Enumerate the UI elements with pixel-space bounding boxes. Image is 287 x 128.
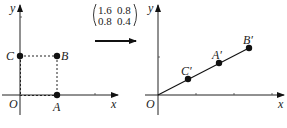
matrix-a21: 0.8 bbox=[98, 15, 112, 27]
point-a bbox=[54, 92, 60, 98]
label-a-prime: A′ bbox=[211, 48, 222, 62]
image-line bbox=[158, 48, 249, 95]
left-y-label: y bbox=[9, 1, 16, 15]
right-plot: y x O C′ A′ B′ bbox=[145, 1, 284, 115]
diagram: y x O A B C 1.6 0.8 0.8 0.4 y x O C′ A′ … bbox=[0, 0, 287, 128]
left-origin-label: O bbox=[9, 97, 18, 111]
label-c-prime: C′ bbox=[181, 64, 192, 78]
matrix-left-paren bbox=[94, 4, 97, 26]
right-y-label: y bbox=[147, 1, 154, 15]
matrix-right-paren bbox=[134, 4, 137, 26]
point-c bbox=[17, 53, 23, 59]
point-b bbox=[54, 53, 60, 59]
label-c: C bbox=[6, 49, 15, 63]
transform-matrix: 1.6 0.8 0.8 0.4 bbox=[94, 4, 137, 41]
label-b: B bbox=[61, 49, 69, 63]
matrix-a22: 0.4 bbox=[117, 15, 131, 27]
label-b-prime: B′ bbox=[243, 33, 253, 47]
label-a: A bbox=[52, 100, 61, 114]
left-x-label: x bbox=[110, 97, 117, 111]
right-x-label: x bbox=[277, 97, 284, 111]
right-origin-label: O bbox=[146, 97, 155, 111]
